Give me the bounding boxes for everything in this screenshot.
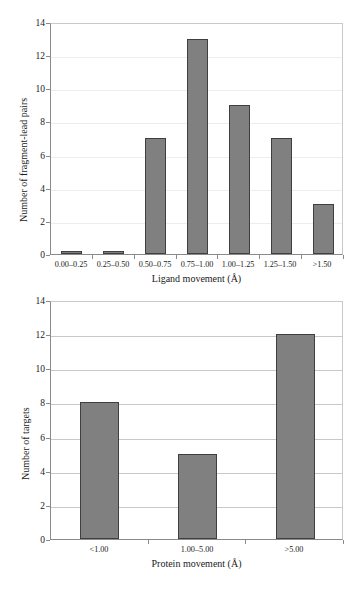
chart-panel-ligand-movement: 02468101214 0.00–0.250.25–0.500.50–0.750…	[0, 0, 363, 290]
y-axis-tick-label: 14	[25, 18, 45, 28]
y-axis-tick-mark	[46, 472, 50, 473]
y-axis-tick-mark	[46, 156, 50, 157]
y-axis-tick-mark	[46, 255, 50, 256]
bar	[276, 334, 315, 539]
y-axis-tick-label: 12	[25, 51, 45, 61]
y-axis-tick-label: 0	[25, 250, 45, 260]
x-axis-title-ligand: Ligand movement (Å)	[50, 273, 343, 285]
plot-area-protein-movement	[50, 301, 343, 540]
y-axis-tick-mark	[46, 23, 50, 24]
y-axis-tick-mark	[46, 189, 50, 190]
y-axis-tick-mark	[46, 89, 50, 90]
bar	[178, 454, 217, 539]
x-axis-tick-mark	[217, 255, 218, 259]
y-axis-tick-label: 12	[25, 330, 45, 340]
y-axis-tick-mark	[46, 403, 50, 404]
y-axis-tick-label: 0	[25, 535, 45, 545]
x-axis-tick-label: >5.00	[238, 545, 350, 555]
bar	[145, 138, 166, 254]
figure-two-histograms: 02468101214 0.00–0.250.25–0.500.50–0.750…	[0, 0, 363, 593]
x-axis-tick-mark	[301, 255, 302, 259]
y-axis-title-protein: Number of targets	[20, 407, 32, 480]
plot-area-ligand-movement	[50, 23, 343, 255]
x-axis-tick-mark	[343, 540, 344, 544]
chart-panel-protein-movement: 02468101214 <1.001.00–5.00>5.00 Protein …	[0, 290, 363, 593]
y-axis-tick-mark	[46, 438, 50, 439]
x-axis-tick-mark	[148, 540, 149, 544]
x-axis-tick-label: 1.00–5.00	[141, 545, 253, 555]
bar	[103, 251, 124, 254]
x-axis-tick-mark	[245, 540, 246, 544]
y-axis-tick-mark	[46, 335, 50, 336]
y-axis-tick-mark	[46, 506, 50, 507]
x-axis-tick-mark	[259, 255, 260, 259]
x-axis-tick-label: <1.00	[43, 545, 155, 555]
bar	[271, 138, 292, 254]
y-axis-tick-mark	[46, 56, 50, 57]
y-axis-tick-mark	[46, 369, 50, 370]
y-axis-tick-mark	[46, 222, 50, 223]
y-axis-tick-label: 10	[25, 364, 45, 374]
bar	[61, 251, 82, 254]
bar	[80, 402, 119, 539]
y-axis-tick-mark	[46, 122, 50, 123]
y-axis-tick-label: 10	[25, 84, 45, 94]
y-axis-tick-mark	[46, 301, 50, 302]
x-axis-tick-mark	[176, 255, 177, 259]
y-axis-tick-mark	[46, 540, 50, 541]
x-axis-tick-mark	[92, 255, 93, 259]
bar	[313, 204, 334, 254]
y-axis-title-ligand: Number of fragment-lead pairs	[18, 98, 30, 222]
x-axis-tick-mark	[343, 255, 344, 259]
x-axis-title-protein: Protein movement (Å)	[50, 558, 343, 570]
y-axis-tick-label: 14	[25, 296, 45, 306]
bar	[187, 39, 208, 254]
x-axis-tick-mark	[134, 255, 135, 259]
x-axis-tick-label: >1.50	[294, 260, 350, 270]
bar	[229, 105, 250, 254]
y-axis-tick-label: 2	[25, 501, 45, 511]
